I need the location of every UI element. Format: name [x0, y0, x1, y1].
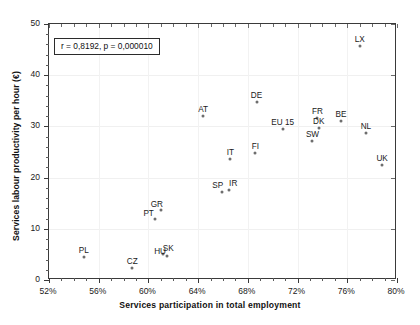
data-point-label: DK — [313, 117, 324, 126]
data-point — [381, 163, 384, 166]
x-axis-minor-tick — [161, 278, 162, 281]
gridline-vertical — [148, 24, 149, 278]
y-axis-tick-right — [391, 178, 395, 179]
correlation-annotation: r = 0,8192, p = 0,000010 — [54, 38, 160, 55]
y-axis-tick-right — [391, 126, 395, 127]
x-axis-minor-tick-top — [322, 24, 323, 27]
x-axis-minor-tick — [385, 278, 386, 281]
y-axis-minor-tick — [46, 198, 49, 199]
y-axis-minor-tick — [46, 219, 49, 220]
x-axis-minor-tick — [223, 278, 224, 281]
x-axis-minor-tick-top — [61, 24, 62, 27]
data-point-label: NL — [361, 122, 371, 131]
x-axis-minor-tick-top — [86, 24, 87, 27]
x-axis-minor-tick-top — [161, 24, 162, 27]
data-point — [311, 139, 314, 142]
data-point-label: PL — [79, 246, 89, 255]
y-axis-minor-tick — [46, 157, 49, 158]
data-point-label: IT — [227, 148, 234, 157]
x-axis-tick-label: 64% — [189, 286, 206, 296]
gridline-vertical — [99, 24, 100, 278]
x-axis-tick — [49, 278, 50, 283]
x-axis-minor-tick — [310, 278, 311, 281]
x-axis-tick-label: 60% — [139, 286, 156, 296]
y-axis-tick-right — [391, 229, 395, 230]
x-axis-tick-label: 56% — [89, 286, 106, 296]
x-axis-title: Services participation in total employme… — [0, 300, 420, 310]
y-axis-minor-tick — [46, 188, 49, 189]
x-axis-minor-tick — [86, 278, 87, 281]
gridline-horizontal — [49, 75, 395, 76]
y-axis-tick-label: 30 — [0, 120, 40, 130]
data-point — [254, 152, 257, 155]
x-axis-minor-tick — [260, 278, 261, 281]
y-axis-minor-tick — [46, 116, 49, 117]
y-axis-minor-tick — [46, 137, 49, 138]
x-axis-tick — [198, 278, 199, 283]
data-point-label: CZ — [127, 257, 138, 266]
y-axis-tick-right — [391, 280, 395, 281]
y-axis-minor-tick — [46, 96, 49, 97]
data-point-label: LX — [355, 35, 365, 44]
x-axis-tick-top — [99, 24, 100, 28]
data-point — [131, 267, 134, 270]
data-point — [220, 190, 223, 193]
x-axis-minor-tick — [235, 278, 236, 281]
y-axis-title: Services labour productivity per hour (€… — [11, 28, 21, 284]
data-point-label: FI — [252, 142, 259, 151]
x-axis-tick-label: 72% — [288, 286, 305, 296]
x-axis-minor-tick — [136, 278, 137, 281]
x-axis-minor-tick — [322, 278, 323, 281]
data-point — [358, 45, 361, 48]
plot-area: LXDEATFRBEDKEU 15NLSWFIITUKIRSPGRPTSKHUP… — [48, 23, 396, 279]
x-axis-tick — [397, 278, 398, 283]
x-axis-minor-tick — [211, 278, 212, 281]
x-axis-tick — [298, 278, 299, 283]
x-axis-minor-tick — [360, 278, 361, 281]
y-axis-minor-tick — [46, 167, 49, 168]
x-axis-minor-tick-top — [173, 24, 174, 27]
y-axis-minor-tick — [46, 106, 49, 107]
y-axis-tick-label: 50 — [0, 18, 40, 28]
data-point — [202, 114, 205, 117]
x-axis-tick-label: 76% — [338, 286, 355, 296]
y-axis-tick-right — [391, 24, 395, 25]
x-axis-minor-tick-top — [211, 24, 212, 27]
data-point — [255, 100, 258, 103]
x-axis-tick-top — [198, 24, 199, 28]
data-point-label: HU — [154, 247, 166, 256]
x-axis-minor-tick-top — [223, 24, 224, 27]
y-axis-tick-label: 0 — [0, 274, 40, 284]
x-axis-minor-tick — [285, 278, 286, 281]
x-axis-minor-tick-top — [385, 24, 386, 27]
data-point — [82, 255, 85, 258]
y-axis-minor-tick — [46, 85, 49, 86]
x-axis-tick — [248, 278, 249, 283]
gridline-vertical — [198, 24, 199, 278]
y-axis-tick-label: 40 — [0, 69, 40, 79]
data-point-label: EU 15 — [271, 118, 294, 127]
data-point-label: BE — [336, 110, 347, 119]
x-axis-tick-label: 52% — [39, 286, 56, 296]
data-point — [281, 127, 284, 130]
x-axis-minor-tick-top — [235, 24, 236, 27]
data-point-label: SP — [212, 181, 223, 190]
x-axis-minor-tick-top — [360, 24, 361, 27]
scatter-chart: LXDEATFRBEDKEU 15NLSWFIITUKIRSPGRPTSKHUP… — [0, 0, 420, 325]
x-axis-minor-tick-top — [310, 24, 311, 27]
x-axis-minor-tick — [111, 278, 112, 281]
y-axis-tick-label: 10 — [0, 223, 40, 233]
x-axis-minor-tick — [186, 278, 187, 281]
y-axis-minor-tick — [46, 44, 49, 45]
x-axis-minor-tick — [124, 278, 125, 281]
x-axis-minor-tick-top — [74, 24, 75, 27]
x-axis-tick-label: 68% — [238, 286, 255, 296]
x-axis-minor-tick — [335, 278, 336, 281]
x-axis-minor-tick-top — [111, 24, 112, 27]
data-point-label: PT — [143, 209, 153, 218]
gridline-horizontal — [49, 178, 395, 179]
x-axis-minor-tick-top — [186, 24, 187, 27]
data-point-label: DE — [251, 91, 262, 100]
x-axis-tick-top — [248, 24, 249, 28]
x-axis-minor-tick-top — [273, 24, 274, 27]
